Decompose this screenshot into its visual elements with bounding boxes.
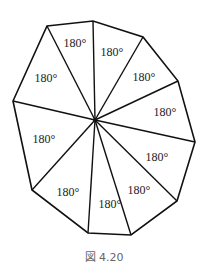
center-point <box>93 118 97 122</box>
angle-label: 180° <box>101 45 124 59</box>
angle-label: 180° <box>35 71 58 85</box>
angle-label: 180° <box>99 197 122 211</box>
angle-label: 180° <box>146 150 169 164</box>
diagonal-line <box>95 120 195 142</box>
angle-label: 180° <box>64 36 87 50</box>
diagonal-line <box>13 101 95 120</box>
diagonal-line <box>93 21 95 120</box>
angle-label: 180° <box>57 185 80 199</box>
diagonal-line <box>88 120 95 233</box>
diagonal-line <box>32 120 95 190</box>
angle-label: 180° <box>133 70 156 84</box>
figure-caption: 図 4.20 <box>85 251 124 264</box>
angle-label: 180° <box>33 132 56 146</box>
angle-label: 180° <box>154 105 177 119</box>
polygon-diagram: 180° 180° 180° 180° 180° 180° 180° 180° … <box>0 0 207 278</box>
angle-label: 180° <box>128 183 151 197</box>
angle-labels: 180° 180° 180° 180° 180° 180° 180° 180° … <box>33 36 177 211</box>
